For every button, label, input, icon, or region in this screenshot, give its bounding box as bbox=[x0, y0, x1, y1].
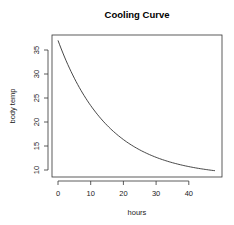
x-tick-label: 0 bbox=[56, 189, 60, 198]
cooling-curve-line bbox=[58, 40, 215, 170]
x-tick-label: 30 bbox=[152, 189, 160, 198]
x-tick-label: 40 bbox=[185, 189, 193, 198]
x-tick-label: 10 bbox=[87, 189, 95, 198]
y-tick-label: 30 bbox=[32, 70, 41, 78]
x-axis-label: hours bbox=[128, 208, 147, 217]
y-tick-label: 20 bbox=[32, 118, 41, 126]
chart: Cooling Curve 010203040 101520253035 hou… bbox=[0, 0, 234, 225]
plot-box bbox=[52, 35, 222, 177]
x-tick-label: 20 bbox=[119, 189, 127, 198]
x-axis: 010203040 bbox=[56, 181, 193, 198]
y-axis: 101520253035 bbox=[32, 46, 48, 174]
y-tick-label: 35 bbox=[32, 46, 41, 54]
y-tick-label: 15 bbox=[32, 142, 41, 150]
y-tick-label: 25 bbox=[32, 94, 41, 102]
y-axis-label: body temp bbox=[8, 88, 17, 123]
y-tick-label: 10 bbox=[32, 166, 41, 174]
chart-title: Cooling Curve bbox=[105, 9, 170, 20]
